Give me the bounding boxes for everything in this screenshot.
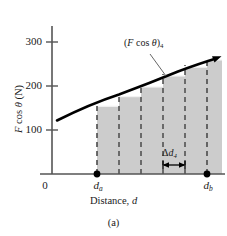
y-tick-label-300: 300: [18, 36, 42, 47]
physics-figure-work-area-under-curve: 300 200 100 F cos θ (N) 0 da db Distance…: [0, 0, 227, 236]
y-axis-title-units: (N): [13, 85, 24, 100]
x-axis-title: Distance, d: [0, 196, 227, 207]
y-axis-title-F: F: [13, 127, 24, 133]
x-label-d-b-sub: b: [209, 184, 213, 193]
force-label-cos: cos: [136, 37, 149, 48]
bar-rect-6: [207, 60, 222, 174]
bar-rect-1: [97, 106, 119, 174]
x-label-d-a: da: [89, 180, 107, 193]
force-component-label: (F cos θ)4: [124, 38, 163, 50]
leader-line: [150, 54, 166, 76]
x-origin-label: 0: [38, 180, 52, 191]
delta-d-label: Δd4: [162, 148, 177, 160]
bar-rect-3: [141, 87, 163, 174]
y-axis-title-cos: cos: [13, 110, 24, 124]
y-axis-title-space2: [13, 107, 24, 110]
figure-caption: (a): [0, 218, 227, 229]
y-axis-title-theta: θ: [13, 102, 24, 107]
bar-rect-2: [119, 97, 141, 174]
x-axis-title-text: Distance,: [90, 195, 129, 206]
y-axis-title-space1: [13, 124, 24, 127]
delta-d-sub: 4: [173, 152, 176, 159]
riemann-rectangles: [97, 60, 222, 174]
endpoint-dot-da: [94, 171, 101, 178]
y-axis-title: F cos θ (N): [14, 85, 25, 133]
endpoint-dot-db: [204, 171, 211, 178]
force-label-sub: 4: [160, 42, 163, 49]
x-label-d-a-sub: a: [99, 184, 103, 193]
x-label-d-b: db: [199, 180, 217, 193]
x-axis-title-var: d: [132, 195, 137, 206]
force-label-leader: [150, 54, 166, 76]
bar-rect-5: [185, 67, 207, 174]
